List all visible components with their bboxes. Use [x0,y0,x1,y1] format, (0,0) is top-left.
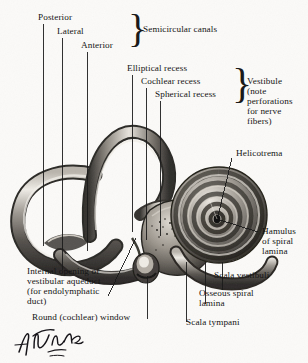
label-internal-opening-line1: Internal opening of [27,266,99,276]
leader-hamulus [220,220,258,232]
label-scala-tympani: Scala tympani [186,317,240,327]
label-vestibule-line3: perforations [247,96,293,106]
label-lateral: Lateral [57,26,84,36]
label-osseous-spiral-lamina-line1: Osseous spiral [199,288,254,298]
label-helicotrema: Helicotrema [236,148,283,158]
label-scala-vestibuli: Scala vestibuli [214,270,269,280]
label-hamulus-line3: lamina [262,246,288,256]
label-posterior: Posterior [38,12,72,22]
label-internal-opening-line2: vestibular aqueduct [27,276,101,286]
label-vestibule-line4: for nerve [247,106,281,116]
label-hamulus-line2: of spiral [262,236,293,246]
label-semicircular-canals: Semicircular canals [143,24,217,34]
bony-labyrinth-illustration [0,0,308,363]
label-elliptical-recess: Elliptical recess [127,63,187,73]
leader-helicotrema [218,158,232,216]
label-hamulus-line1: Hamulus [262,226,296,236]
artist-signature [15,330,83,356]
label-vestibule-line5: fibers) [247,116,272,126]
label-vestibule-line1: Vestibule [247,76,282,86]
label-anterior: Anterior [81,40,113,50]
label-vestibule-line2: (note [247,86,266,96]
leader-internal-opening [108,238,136,296]
label-internal-opening-line4: duct) [27,296,46,306]
label-round-window: Round (cochlear) window [32,312,130,322]
label-osseous-spiral-lamina-line2: lamina [199,298,225,308]
anatomy-figure-bony-labyrinth: Posterior Lateral Anterior } Semicircula… [0,0,308,363]
label-cochlear-recess: Cochlear recess [141,76,200,86]
label-spherical-recess: Spherical recess [155,89,216,99]
label-internal-opening-line3: (for endolymphatic [27,286,99,296]
